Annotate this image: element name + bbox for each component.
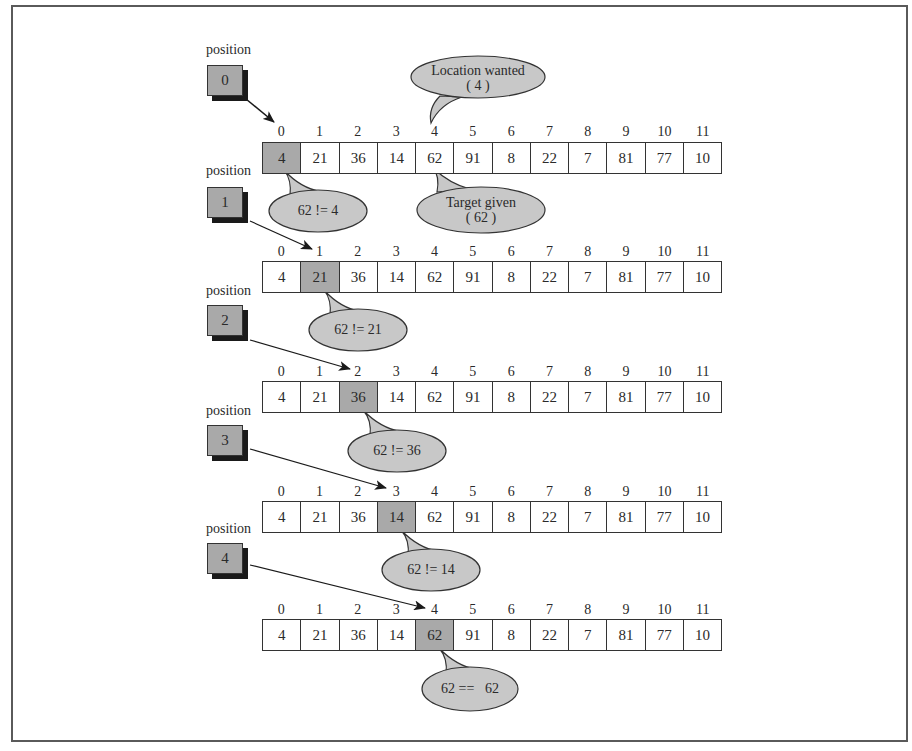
- array-cell: 91: [454, 382, 492, 412]
- comparison-text-4: 62 == 62: [422, 681, 518, 696]
- array-cell: 91: [454, 502, 492, 532]
- array-cell: 21: [301, 382, 339, 412]
- array-row-3: 421361462918227817710: [262, 501, 722, 533]
- array-cell: 8: [493, 262, 531, 292]
- array-cell: 7: [569, 502, 607, 532]
- index-label: 1: [300, 124, 338, 140]
- index-label: 1: [300, 484, 338, 500]
- array-cell: 81: [607, 502, 645, 532]
- index-label: 11: [684, 244, 722, 260]
- index-label: 2: [339, 124, 377, 140]
- array-cell: 77: [646, 143, 684, 173]
- array-cell: 81: [607, 143, 645, 173]
- array-cell: 7: [569, 143, 607, 173]
- array-cell: 77: [646, 262, 684, 292]
- array-cell: 77: [646, 502, 684, 532]
- index-label: 6: [492, 484, 530, 500]
- comparison-bubble-3: [382, 530, 480, 591]
- index-label: 5: [454, 364, 492, 380]
- index-label: 6: [492, 364, 530, 380]
- index-label: 8: [569, 484, 607, 500]
- array-cell: 8: [493, 382, 531, 412]
- location-wanted-text: Location wanted ( 4 ): [411, 63, 545, 93]
- array-cell: 14: [378, 143, 416, 173]
- array-cell: 36: [340, 143, 378, 173]
- index-label: 5: [454, 124, 492, 140]
- index-label: 0: [262, 364, 300, 380]
- index-label: 8: [569, 124, 607, 140]
- position-label-1: position: [206, 163, 251, 179]
- index-label: 9: [607, 364, 645, 380]
- array-cell: 22: [531, 262, 569, 292]
- index-label: 0: [262, 602, 300, 618]
- index-row-3: 01234567891011: [262, 484, 722, 500]
- index-label: 7: [530, 364, 568, 380]
- index-label: 0: [262, 484, 300, 500]
- array-cell: 14: [378, 262, 416, 292]
- array-cell: 8: [493, 620, 531, 650]
- array-cell: 91: [454, 143, 492, 173]
- array-cell: 21: [301, 620, 339, 650]
- array-cell: 21: [301, 143, 339, 173]
- index-label: 4: [415, 364, 453, 380]
- index-label: 3: [377, 364, 415, 380]
- array-cell: 36: [340, 262, 378, 292]
- index-label: 6: [492, 602, 530, 618]
- index-label: 2: [339, 244, 377, 260]
- position-box-2: 2: [207, 305, 243, 336]
- index-label: 6: [492, 244, 530, 260]
- array-cell: 22: [531, 502, 569, 532]
- array-cell: 10: [684, 502, 721, 532]
- index-label: 1: [300, 364, 338, 380]
- array-cell: 81: [607, 620, 645, 650]
- array-cell: 91: [454, 620, 492, 650]
- array-cell: 36: [340, 502, 378, 532]
- comparison-bubble-1: [309, 290, 407, 351]
- comparison-text-2: 62 != 36: [348, 443, 446, 458]
- location-wanted-label: Location wanted: [411, 63, 545, 78]
- position-label-2: position: [206, 283, 251, 299]
- index-label: 3: [377, 244, 415, 260]
- index-label: 11: [684, 364, 722, 380]
- index-label: 5: [454, 244, 492, 260]
- index-label: 7: [530, 244, 568, 260]
- array-cell: 81: [607, 262, 645, 292]
- array-cell-highlighted: 36: [340, 382, 378, 412]
- array-row-4: 421361462918227817710: [262, 619, 722, 651]
- array-cell: 22: [531, 382, 569, 412]
- target-given-value: ( 62 ): [417, 210, 545, 225]
- position-label-3: position: [206, 403, 251, 419]
- array-cell-highlighted: 14: [378, 502, 416, 532]
- index-label: 11: [684, 484, 722, 500]
- index-label: 6: [492, 124, 530, 140]
- array-cell: 77: [646, 382, 684, 412]
- array-cell: 14: [378, 382, 416, 412]
- target-given-label: Target given: [417, 195, 545, 210]
- array-cell: 36: [340, 620, 378, 650]
- index-label: 9: [607, 124, 645, 140]
- array-cell: 62: [416, 143, 454, 173]
- index-row-1: 01234567891011: [262, 244, 722, 260]
- array-cell-highlighted: 62: [416, 620, 454, 650]
- position-box-4: 4: [207, 543, 243, 574]
- index-label: 9: [607, 484, 645, 500]
- comparison-bubble-4: [422, 648, 518, 711]
- location-wanted-value: ( 4 ): [411, 78, 545, 93]
- array-cell: 10: [684, 620, 721, 650]
- index-label: 7: [530, 124, 568, 140]
- position-arrow-0: [246, 99, 274, 122]
- comparison-text-3: 62 != 14: [382, 562, 480, 577]
- array-cell: 4: [263, 382, 301, 412]
- index-label: 10: [645, 244, 683, 260]
- array-cell: 10: [684, 262, 721, 292]
- index-label: 4: [415, 244, 453, 260]
- array-row-0: 421361462918227817710: [262, 142, 722, 174]
- comparison-bubble-2: [348, 410, 446, 472]
- index-label: 11: [684, 124, 722, 140]
- index-label: 4: [415, 484, 453, 500]
- index-label: 0: [262, 124, 300, 140]
- array-cell: 77: [646, 620, 684, 650]
- array-cell: 8: [493, 502, 531, 532]
- index-label: 3: [377, 484, 415, 500]
- position-box-0: 0: [207, 65, 243, 96]
